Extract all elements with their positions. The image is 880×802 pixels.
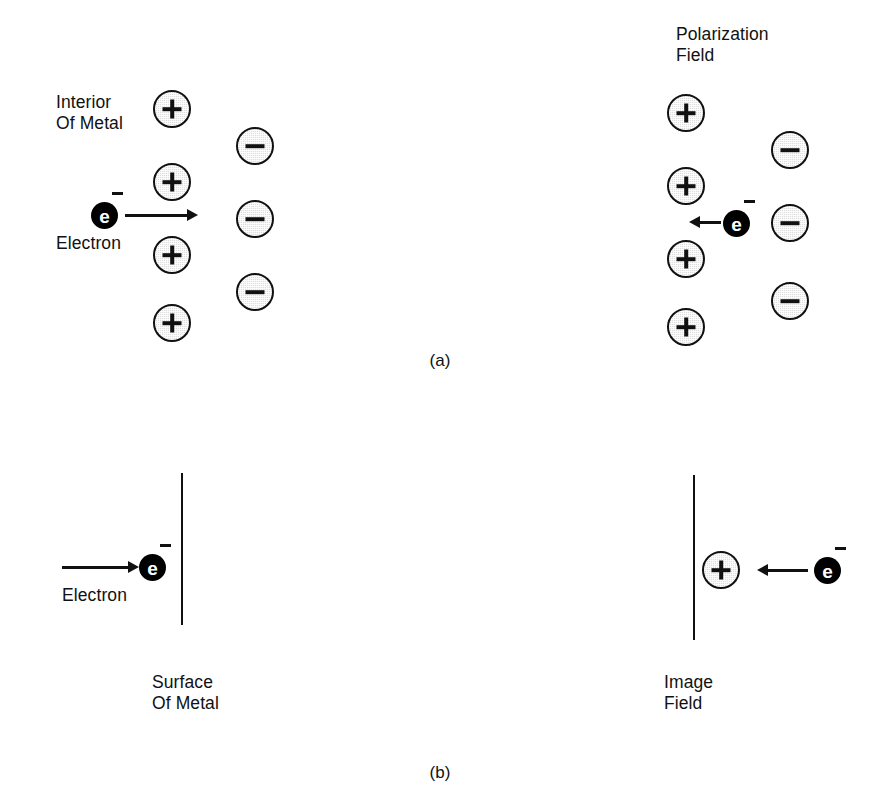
negative-ion-circle <box>771 204 809 242</box>
minus-bar-horizontal <box>781 148 800 152</box>
panel-a-caption: (a) <box>400 351 480 371</box>
electron-charge-minus-icon <box>160 544 171 547</box>
positive-ion-circle <box>153 163 191 201</box>
positive-ion-circle <box>667 167 705 205</box>
motion-arrow-head-right-icon <box>128 561 139 573</box>
minus-bar-horizontal <box>246 290 265 294</box>
negative-ion-circle <box>236 273 274 311</box>
electron-charge-minus-icon <box>835 547 846 550</box>
polarization-field-label: Polarization Field <box>676 24 769 66</box>
plus-bar-vertical <box>684 250 688 269</box>
minus-bar-horizontal <box>246 217 265 221</box>
electron-charge-minus-icon <box>744 200 755 203</box>
negative-ion-circle <box>771 282 809 320</box>
minus-bar-horizontal <box>781 299 800 303</box>
plus-bar-vertical <box>170 173 174 192</box>
plus-bar-vertical <box>684 104 688 123</box>
plus-bar-vertical <box>170 246 174 265</box>
panel-b-caption: (b) <box>400 763 480 783</box>
force-arrow-shaft <box>700 221 721 224</box>
surface-of-metal-label: Surface Of Metal <box>152 672 219 714</box>
electron-label: Electron <box>62 585 127 606</box>
minus-bar-horizontal <box>781 221 800 225</box>
positive-ion-circle <box>667 94 705 132</box>
plus-bar-vertical <box>684 318 688 337</box>
force-arrow-head-left-icon <box>757 564 768 576</box>
negative-ion-circle <box>236 127 274 165</box>
negative-ion-circle <box>771 131 809 169</box>
electron-letter: e <box>731 215 742 234</box>
electron-symbol: e <box>139 554 166 581</box>
electron-letter: e <box>147 559 158 578</box>
electron-symbol: e <box>814 557 841 584</box>
plus-bar-vertical <box>684 177 688 196</box>
plus-bar-vertical <box>719 561 723 580</box>
electron-symbol: e <box>91 202 118 229</box>
motion-arrow-shaft <box>62 566 130 569</box>
figure-canvas: Interior Of Metal e Electron Polarizatio… <box>0 0 880 802</box>
electron-letter: e <box>822 562 833 581</box>
metal-surface-line <box>693 475 695 640</box>
negative-ion-circle <box>236 200 274 238</box>
plus-bar-vertical <box>170 100 174 119</box>
motion-arrow-head-right-icon <box>187 209 198 221</box>
interior-of-metal-label: Interior Of Metal <box>56 92 123 134</box>
positive-ion-circle <box>153 304 191 342</box>
motion-arrow-shaft <box>125 214 189 217</box>
force-arrow-head-left-icon <box>689 216 700 228</box>
plus-bar-vertical <box>170 314 174 333</box>
positive-ion-circle <box>667 308 705 346</box>
force-arrow-shaft <box>768 569 808 572</box>
electron-symbol: e <box>723 210 750 237</box>
electron-label: Electron <box>56 233 121 254</box>
electron-letter: e <box>99 207 110 226</box>
positive-ion-circle <box>153 236 191 274</box>
image-field-label: Image Field <box>664 672 713 714</box>
image-charge-positive-ion-circle <box>702 551 740 589</box>
positive-ion-circle <box>153 90 191 128</box>
electron-charge-minus-icon <box>112 192 123 195</box>
metal-surface-line <box>181 473 183 625</box>
positive-ion-circle <box>667 240 705 278</box>
minus-bar-horizontal <box>246 144 265 148</box>
